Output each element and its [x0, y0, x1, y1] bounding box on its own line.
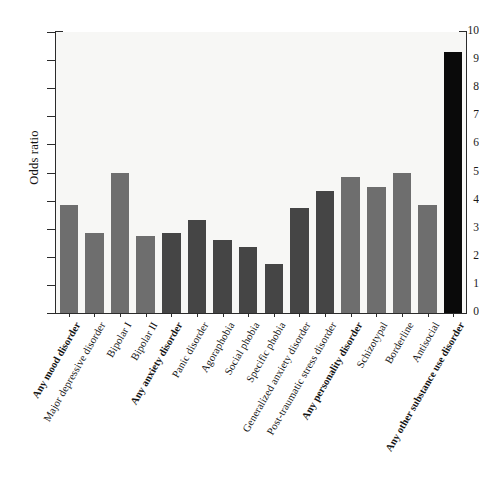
bar: [85, 233, 103, 313]
bar: [213, 240, 231, 313]
bar: [341, 177, 359, 313]
y-tick-mark: [47, 32, 55, 33]
bar: [418, 205, 436, 313]
y-tick-mark: [47, 88, 55, 89]
y-tick-mark: [47, 285, 55, 286]
x-tick-mark: [223, 313, 224, 317]
x-tick-mark: [428, 313, 429, 317]
bars-layer: [56, 32, 466, 313]
y-tick-mark: [47, 144, 55, 145]
x-tick-mark: [171, 313, 172, 317]
x-axis-labels: Any mood disorderMajor depressive disord…: [56, 313, 466, 490]
y-axis-title: Odds ratio: [27, 98, 42, 218]
x-tick-mark: [248, 313, 249, 317]
x-tick-mark: [453, 313, 454, 317]
y-tick-mark: [47, 313, 55, 314]
y-tick-mark: [47, 201, 55, 202]
x-tick-mark: [120, 313, 121, 317]
y-tick-mark: [47, 229, 55, 230]
bar: [136, 236, 154, 313]
bar: [290, 208, 308, 313]
bar: [316, 191, 334, 313]
y-tick-mark: [47, 60, 55, 61]
x-tick-mark: [351, 313, 352, 317]
bar: [367, 187, 385, 313]
x-tick-mark: [402, 313, 403, 317]
bar: [393, 173, 411, 314]
x-tick-mark: [376, 313, 377, 317]
bar: [265, 264, 283, 313]
y-tick-mark: [47, 257, 55, 258]
y-tick-mark: [47, 116, 55, 117]
x-tick-mark: [325, 313, 326, 317]
x-tick-mark: [146, 313, 147, 317]
bar: [444, 52, 462, 313]
bar: [162, 233, 180, 313]
x-tick-mark: [274, 313, 275, 317]
x-tick-mark: [299, 313, 300, 317]
bar: [60, 205, 78, 313]
bar: [188, 220, 206, 313]
y-tick-mark: [47, 173, 55, 174]
x-tick-mark: [94, 313, 95, 317]
x-tick-mark: [69, 313, 70, 317]
bar: [239, 247, 257, 313]
bar: [111, 173, 129, 314]
bar-chart: Odds ratio 012345678910 Any mood disorde…: [0, 0, 479, 490]
x-tick-mark: [197, 313, 198, 317]
